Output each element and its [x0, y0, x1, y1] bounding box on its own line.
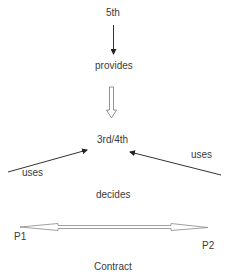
node-provides: provides	[95, 60, 133, 72]
label-uses-left: uses	[22, 167, 43, 179]
arrow-left-uses	[8, 150, 87, 172]
node-p2: P2	[202, 240, 214, 252]
node-p1: P1	[14, 231, 26, 243]
hollow-arrow-provides-to-3rd4th	[107, 87, 117, 118]
label-uses-right: uses	[191, 149, 212, 161]
double-arrow-p1-p2	[20, 224, 208, 231]
node-3rd-4th: 3rd/4th	[97, 134, 128, 146]
node-contract: Contract	[94, 261, 132, 273]
node-decides: decides	[96, 189, 130, 201]
node-5th: 5th	[106, 7, 120, 19]
